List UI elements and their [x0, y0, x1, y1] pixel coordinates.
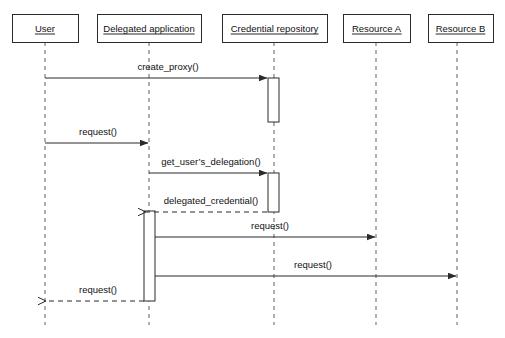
- message-delegated-credential-label: delegated_credential(): [164, 195, 259, 206]
- activation-delegated-application: [144, 211, 155, 301]
- message-request-user-to-app[interactable]: request(): [45, 126, 148, 143]
- message-request-app-to-resource-a[interactable]: request(): [155, 220, 375, 237]
- message-request-app-to-resource-b-label: request(): [294, 259, 332, 270]
- message-request-app-to-resource-b[interactable]: request(): [155, 259, 456, 276]
- message-request-app-to-resource-a-label: request(): [251, 220, 289, 231]
- participant-label-credential-repository: Credential repository: [231, 23, 319, 34]
- message-get-users-delegation-label: get_user’s_delegation(): [161, 156, 260, 167]
- participant-label-resource-a: Resource A: [352, 23, 402, 34]
- message-request-app-to-user[interactable]: request(): [46, 284, 144, 301]
- message-request-user-to-app-label: request(): [79, 126, 117, 137]
- message-create-proxy-label: create_proxy(): [137, 61, 198, 72]
- message-create-proxy[interactable]: create_proxy(): [45, 61, 267, 78]
- participant-label-delegated-application: Delegated application: [103, 23, 194, 34]
- activation-credential-repository-2: [268, 173, 279, 212]
- participant-resource-b[interactable]: Resource B: [429, 15, 494, 43]
- participant-user[interactable]: User: [13, 15, 79, 43]
- sequence-diagram: UserDelegated applicationCredential repo…: [0, 0, 505, 338]
- activation-credential-repository-1: [268, 78, 279, 122]
- message-delegated-credential[interactable]: delegated_credential(): [146, 195, 267, 212]
- participant-credential-repository[interactable]: Credential repository: [223, 15, 328, 43]
- messages-layer: create_proxy()request()get_user’s_delega…: [45, 61, 456, 301]
- activations-layer: [144, 78, 279, 301]
- sequence-diagram-canvas: UserDelegated applicationCredential repo…: [0, 0, 505, 338]
- participants-layer: UserDelegated applicationCredential repo…: [13, 15, 494, 43]
- participant-label-user: User: [35, 23, 55, 34]
- message-request-app-to-user-label: request(): [79, 284, 117, 295]
- lifelines-layer: [45, 42, 457, 325]
- participant-delegated-application[interactable]: Delegated application: [98, 15, 202, 43]
- message-get-users-delegation[interactable]: get_user’s_delegation(): [149, 156, 267, 173]
- participant-resource-a[interactable]: Resource A: [344, 15, 411, 43]
- participant-label-resource-b: Resource B: [436, 23, 486, 34]
